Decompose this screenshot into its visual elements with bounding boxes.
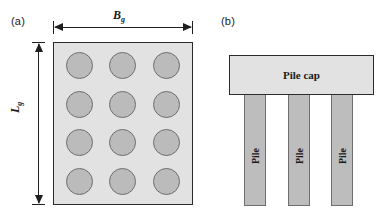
pile-shaft-label: Pile <box>250 148 261 164</box>
arrow-right-icon <box>183 23 192 31</box>
pile-circle <box>109 52 136 79</box>
width-dimension-label: Bg <box>113 8 125 24</box>
pile-shaft: Pile <box>288 76 310 206</box>
height-dimension-subscript: g <box>15 102 24 106</box>
arrow-down-icon <box>35 195 43 204</box>
pile-circle <box>66 129 93 156</box>
pile-circle <box>109 168 136 195</box>
width-dimension-symbol: B <box>113 8 121 22</box>
panel-label-a: (a) <box>11 15 25 27</box>
pile-circle <box>153 52 180 79</box>
pile-circle <box>153 91 180 118</box>
pile-cap: Pile cap <box>229 55 374 95</box>
pile-circle <box>153 129 180 156</box>
pile-circle-grid <box>54 43 192 204</box>
width-dimension-subscript: g <box>121 15 125 24</box>
pile-circle <box>109 91 136 118</box>
height-dimension-symbol: L <box>8 106 22 113</box>
height-dimension-line <box>38 44 39 203</box>
pile-group-figure: (a) Bg Lg (b) Pile cap Pile <box>0 0 385 221</box>
pile-circle <box>66 52 93 79</box>
height-dimension-label: Lg <box>8 102 24 113</box>
width-dimension-tick-right <box>192 21 193 34</box>
pile-circle <box>66 91 93 118</box>
arrow-left-icon <box>54 23 63 31</box>
pile-shaft: Pile <box>331 76 353 206</box>
pile-circle <box>153 168 180 195</box>
pile-cap-label: Pile cap <box>230 69 373 81</box>
pile-shaft: Pile <box>244 76 266 206</box>
height-dimension-tick-bottom <box>32 204 45 205</box>
pile-shaft-label: Pile <box>294 148 305 164</box>
pile-group-slab <box>53 42 193 205</box>
width-dimension-line <box>55 27 191 28</box>
pile-circle <box>66 168 93 195</box>
pile-circle <box>109 129 136 156</box>
arrow-up-icon <box>35 43 43 52</box>
pile-shaft-label: Pile <box>337 148 348 164</box>
panel-label-b: (b) <box>221 15 235 27</box>
